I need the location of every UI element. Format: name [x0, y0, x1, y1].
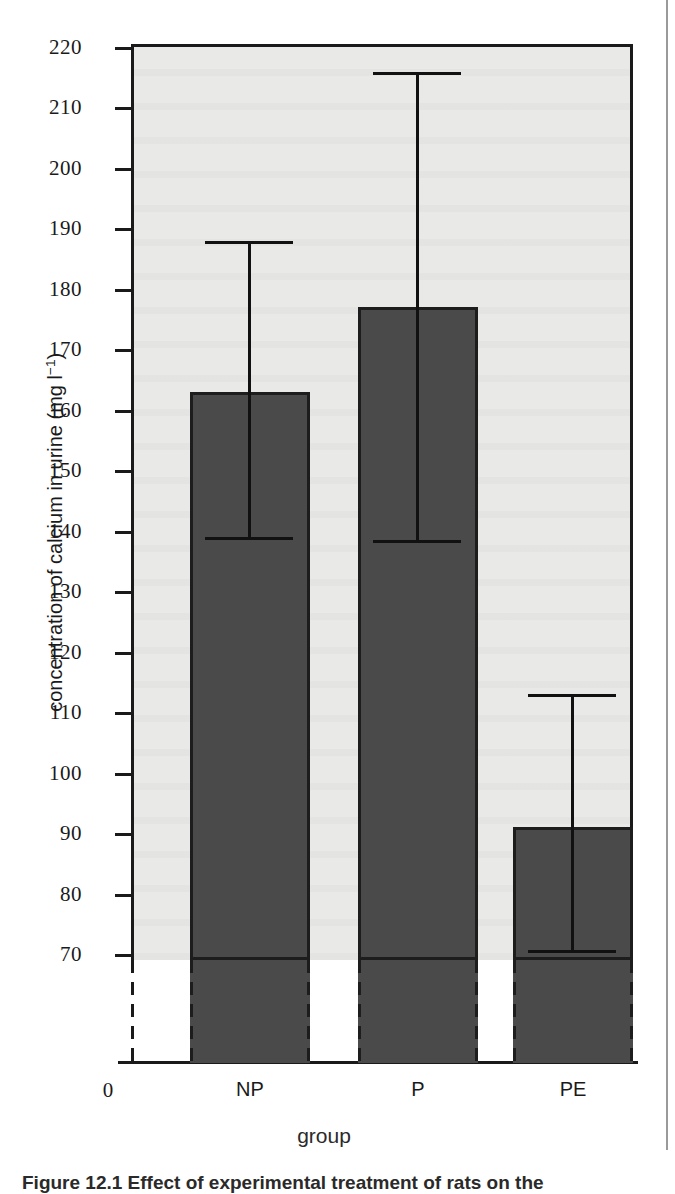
y-tick-150	[115, 470, 131, 473]
bar-np-edge-right	[307, 960, 310, 1063]
y-tick-100	[115, 773, 131, 776]
error-bar-cap-upper-p	[373, 72, 461, 75]
bar-np-break-segment	[190, 960, 310, 1063]
y-tick-label-200: 200	[49, 156, 82, 181]
y-tick-label-220: 220	[49, 35, 82, 60]
figure-container: 220 210 200 190 180 170 160 150 140 130 …	[0, 0, 648, 1190]
x-axis-title: group	[0, 1124, 648, 1148]
error-bar-cap-lower-pe	[528, 950, 616, 953]
y-tick-160	[115, 410, 131, 413]
page-edge-line	[666, 0, 668, 1150]
y-axis-title: concentration of calcium in urine (mg l−…	[43, 272, 68, 792]
y-tick-label-90: 90	[60, 821, 82, 846]
x-tick-label-pe: PE	[513, 1078, 633, 1101]
x-axis-origin-label: 0	[88, 1078, 128, 1103]
y-tick-140	[115, 531, 131, 534]
bar-p-edge-right	[475, 960, 478, 1063]
x-tick-label-p: P	[358, 1078, 478, 1101]
y-axis-title-superscript: −1	[43, 360, 58, 376]
y-tick-180	[115, 289, 131, 292]
y-tick-label-210: 210	[49, 95, 82, 120]
error-bar-cap-lower-np	[205, 537, 293, 540]
y-tick-220	[115, 47, 131, 50]
y-tick-90	[115, 833, 131, 836]
y-tick-110	[115, 712, 131, 715]
y-tick-label-70: 70	[60, 942, 82, 967]
bar-pe-edge-left	[513, 960, 516, 1063]
error-bar-cap-lower-p	[373, 540, 461, 543]
bar-p-edge-left	[358, 960, 361, 1063]
error-bar-cap-upper-np	[205, 241, 293, 244]
y-tick-label-190: 190	[49, 216, 82, 241]
y-tick-80	[115, 894, 131, 897]
y-tick-200	[115, 168, 131, 171]
page-right-margin	[640, 0, 666, 1150]
error-bar-stem-pe	[571, 694, 574, 950]
y-tick-70	[115, 954, 131, 957]
y-tick-120	[115, 652, 131, 655]
error-bar-stem-np	[248, 241, 251, 537]
axis-break-dash-left	[131, 960, 134, 1063]
y-tick-label-80: 80	[60, 882, 82, 907]
bar-np-edge-left	[190, 960, 193, 1063]
y-tick-130	[115, 591, 131, 594]
bar-pe-edge-right	[630, 960, 633, 1063]
error-bar-stem-p	[416, 72, 419, 540]
bar-p-break-segment	[358, 960, 478, 1063]
y-axis-title-main: concentration of calcium in urine (mg l	[44, 375, 66, 712]
figure-caption: Figure 12.1 Effect of experimental treat…	[22, 1172, 662, 1194]
bar-pe-break-segment	[513, 960, 633, 1063]
y-tick-210	[115, 107, 131, 110]
x-tick-label-np: NP	[190, 1078, 310, 1101]
y-tick-170	[115, 349, 131, 352]
y-tick-190	[115, 228, 131, 231]
error-bar-cap-upper-pe	[528, 694, 616, 697]
y-axis-title-tail: )	[44, 353, 66, 360]
